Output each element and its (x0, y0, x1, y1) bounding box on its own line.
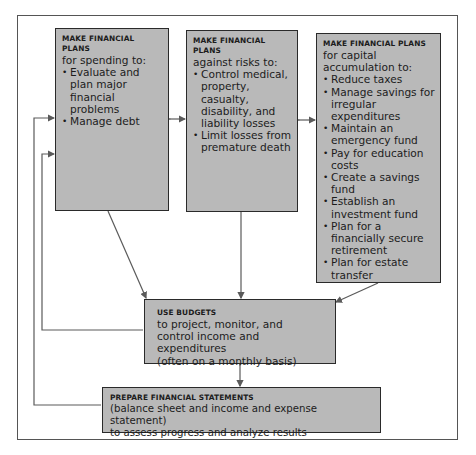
list-item: Reduce taxes (323, 73, 435, 85)
list-item: Pay for education costs (323, 147, 435, 171)
budgets-box: USE BUDGETS to project, monitor, and con… (144, 299, 336, 364)
spending-plans-box: MAKE FINANCIAL PLANS for spending to: Ev… (55, 28, 169, 211)
budgets-line: (often on a monthly basis) (157, 355, 330, 367)
list-item: Plan for estate transfer (323, 256, 435, 280)
list-item: Limit losses from premature death (193, 129, 292, 153)
list-item: Manage debt (62, 115, 163, 127)
capital-plans-box: MAKE FINANCIAL PLANS for capital accumul… (316, 33, 441, 283)
list-item: Create a savings fund (323, 171, 435, 195)
list-item: Control medical, property, casualty, dis… (193, 68, 292, 129)
risks-subheading: against risks to: (193, 56, 292, 68)
statements-heading: PREPARE FINANCIAL STATEMENTS (110, 393, 375, 403)
statements-line: to assess progress and analyze results (110, 427, 375, 439)
list-item: Manage savings for irregular expenditure… (323, 86, 435, 123)
list-item: Maintain an emergency fund (323, 122, 435, 146)
spending-list: Evaluate and plan major financial proble… (62, 66, 163, 127)
budgets-line: control income and expenditures (157, 330, 330, 354)
budgets-heading: USE BUDGETS (157, 308, 330, 318)
list-item: Evaluate and plan major financial proble… (62, 66, 163, 115)
risks-list: Control medical, property, casualty, dis… (193, 68, 292, 153)
capital-subheading: for capital accumulation to: (323, 49, 435, 73)
capital-heading: MAKE FINANCIAL PLANS (323, 39, 435, 49)
spending-subheading: for spending to: (62, 54, 163, 66)
list-item: Plan for a financially secure retirement (323, 220, 435, 257)
capital-list: Reduce taxes Manage savings for irregula… (323, 73, 435, 280)
list-item: Establish an investment fund (323, 195, 435, 219)
statements-box: PREPARE FINANCIAL STATEMENTS (balance sh… (102, 387, 381, 433)
budgets-line: to project, monitor, and (157, 318, 330, 330)
spending-heading: MAKE FINANCIAL PLANS (62, 34, 163, 54)
risk-plans-box: MAKE FINANCIAL PLANS against risks to: C… (186, 30, 298, 212)
risks-heading: MAKE FINANCIAL PLANS (193, 36, 292, 56)
statements-line: (balance sheet and income and expense st… (110, 403, 375, 427)
